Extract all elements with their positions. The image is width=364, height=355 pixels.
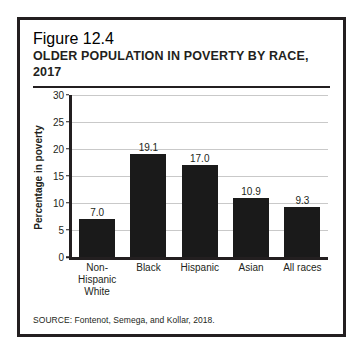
x-axis-label: All races [277, 262, 328, 298]
figure-number: Figure 12.4 [33, 30, 330, 48]
y-tick-label: 5 [58, 224, 64, 235]
bar-value-label: 7.0 [72, 207, 123, 218]
x-axis-label: Non-HispanicWhite [72, 262, 123, 298]
y-tick-label: 30 [53, 89, 64, 100]
bar-slot: 10.9 [225, 95, 276, 258]
figure-inner: Figure 12.4 OLDER POPULATION IN POVERTY … [20, 20, 343, 334]
y-axis-title-label: Percentage in poverty [33, 125, 44, 229]
bar-chart: Percentage in poverty 051015202530 7.019… [33, 95, 330, 279]
bar [130, 154, 166, 257]
bar [79, 219, 115, 257]
bar-value-label: 9.3 [277, 195, 328, 206]
bar-slot: 9.3 [277, 95, 328, 258]
x-axis-label: Asian [225, 262, 276, 298]
source-note: SOURCE: Fontenot, Semega, and Kollar, 20… [33, 315, 215, 325]
bar-value-label: 10.9 [225, 186, 276, 197]
bar-slot: 19.1 [123, 95, 174, 258]
x-axis-label: Black [123, 262, 174, 298]
x-axis-line [69, 257, 328, 260]
bar-slot: 7.0 [72, 95, 123, 258]
y-tick-label: 0 [58, 252, 64, 263]
y-tick-label: 25 [53, 116, 64, 127]
bar [182, 165, 218, 257]
y-axis-ticks: 051015202530 [47, 95, 67, 260]
y-axis-title: Percentage in poverty [31, 95, 45, 260]
bar-slot: 17.0 [174, 95, 225, 258]
bar-value-label: 19.1 [123, 142, 174, 153]
title-divider [33, 86, 330, 88]
plot-area: 7.019.117.010.99.3 [69, 95, 328, 260]
y-tick-label: 20 [53, 143, 64, 154]
figure-frame: Figure 12.4 OLDER POPULATION IN POVERTY … [17, 17, 346, 337]
figure-title: OLDER POPULATION IN POVERTY BY RACE, 201… [33, 48, 313, 80]
y-axis-line [69, 95, 72, 260]
x-axis-labels: Non-HispanicWhiteBlackHispanicAsianAll r… [72, 262, 329, 298]
y-tick-label: 15 [53, 170, 64, 181]
bar-series: 7.019.117.010.99.3 [72, 95, 329, 258]
bar [284, 207, 320, 257]
x-axis-label: Hispanic [174, 262, 225, 298]
y-tick-label: 10 [53, 197, 64, 208]
bar-value-label: 17.0 [174, 153, 225, 164]
bar [233, 198, 269, 257]
